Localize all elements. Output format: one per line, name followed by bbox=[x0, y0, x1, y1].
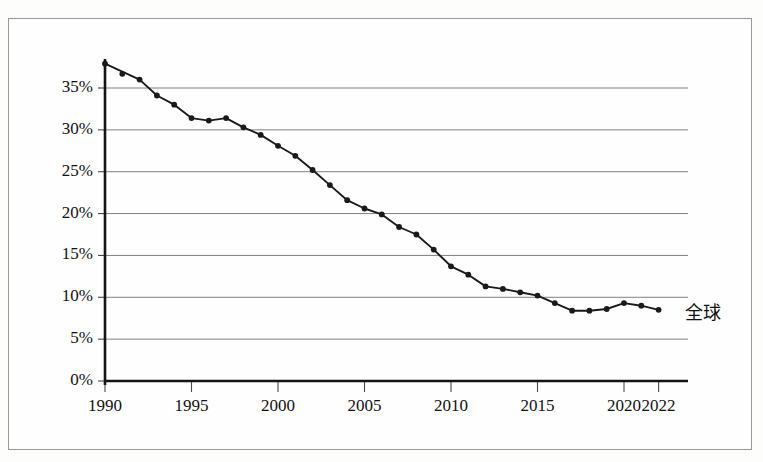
y-tick-label: 5% bbox=[70, 328, 93, 348]
data-point bbox=[379, 212, 385, 218]
data-point bbox=[431, 247, 437, 253]
y-tick-label: 25% bbox=[62, 161, 93, 181]
data-point bbox=[396, 224, 402, 230]
data-point bbox=[241, 124, 247, 130]
chart-figure: 0%5%10%15%20%25%30%35% 19901995200020052… bbox=[0, 0, 763, 462]
data-point bbox=[206, 118, 212, 124]
series-markers-global bbox=[102, 61, 661, 314]
data-point bbox=[569, 308, 575, 314]
x-tick-label: 2005 bbox=[335, 396, 395, 416]
data-point bbox=[656, 307, 662, 313]
data-point bbox=[189, 115, 195, 121]
x-tick-label: 2022 bbox=[629, 396, 689, 416]
y-tick-label: 10% bbox=[62, 286, 93, 306]
data-point bbox=[535, 293, 541, 299]
y-tick-label: 30% bbox=[62, 119, 93, 139]
x-tick-label: 1990 bbox=[75, 396, 135, 416]
y-tick-label: 35% bbox=[62, 77, 93, 97]
data-point bbox=[483, 284, 489, 290]
data-point bbox=[344, 197, 350, 203]
x-tick-label: 2015 bbox=[508, 396, 568, 416]
x-axis-ticks bbox=[105, 381, 659, 392]
data-point bbox=[517, 289, 523, 295]
data-point bbox=[171, 102, 177, 108]
y-gridlines bbox=[105, 88, 688, 339]
chart-plot-area bbox=[0, 0, 763, 462]
series-line-global bbox=[105, 64, 659, 311]
data-point bbox=[137, 77, 143, 83]
y-tick-label: 20% bbox=[62, 203, 93, 223]
data-point bbox=[638, 303, 644, 309]
y-tick-label: 15% bbox=[62, 244, 93, 264]
data-point bbox=[552, 300, 558, 306]
data-point bbox=[154, 93, 160, 99]
data-point bbox=[275, 143, 281, 149]
data-point bbox=[414, 232, 420, 238]
data-point bbox=[292, 153, 298, 159]
data-point bbox=[362, 206, 368, 212]
data-point bbox=[587, 308, 593, 314]
x-tick-label: 2010 bbox=[421, 396, 481, 416]
data-point bbox=[119, 71, 125, 77]
y-tick-label: 0% bbox=[70, 370, 93, 390]
data-point bbox=[327, 182, 333, 188]
x-tick-label: 2000 bbox=[248, 396, 308, 416]
x-tick-label: 1995 bbox=[162, 396, 222, 416]
data-point bbox=[310, 167, 316, 173]
data-point bbox=[258, 132, 264, 138]
data-point bbox=[621, 300, 627, 306]
data-point bbox=[500, 286, 506, 292]
data-point bbox=[223, 115, 229, 121]
data-point bbox=[604, 306, 610, 312]
data-point bbox=[102, 61, 108, 67]
data-point bbox=[465, 272, 471, 278]
data-point bbox=[448, 263, 454, 269]
series-end-label: 全球 bbox=[685, 298, 721, 324]
